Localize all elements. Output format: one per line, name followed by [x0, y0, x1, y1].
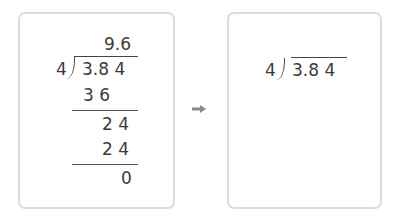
- exercise-divisor: 4: [265, 60, 276, 80]
- subtraction-line-1: [72, 110, 138, 111]
- final-remainder: 0: [121, 168, 132, 188]
- exercise-dividend: 3.8 4: [292, 60, 335, 80]
- exercise-division-overline: [291, 57, 347, 58]
- step-product-2: 2 4: [102, 139, 129, 159]
- division-overline: [74, 56, 138, 57]
- right-arrow-icon: [192, 105, 206, 113]
- dividend: 3.8 4: [82, 59, 125, 79]
- step-remainder-1: 2 4: [102, 114, 129, 134]
- exercise-card: [227, 12, 382, 209]
- step-product-1: 3 6: [83, 85, 110, 105]
- subtraction-line-2: [72, 164, 138, 165]
- quotient: 9.6: [104, 34, 131, 54]
